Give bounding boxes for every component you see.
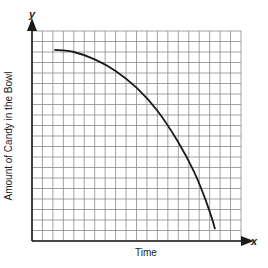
data-curve: [55, 50, 215, 229]
x-axis-label: Time: [86, 247, 206, 258]
y-axis-letter: y: [29, 8, 35, 20]
x-axis-letter: x: [251, 235, 257, 247]
y-axis-label: Amount of Candy in the Bowl: [3, 36, 14, 236]
chart-canvas: [0, 0, 268, 268]
